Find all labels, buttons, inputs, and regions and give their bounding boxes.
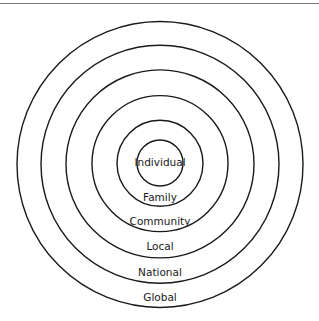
label-individual: Individual — [134, 156, 185, 168]
label-community: Community — [130, 215, 191, 227]
label-national: National — [138, 266, 182, 278]
label-local: Local — [146, 240, 173, 252]
label-global: Global — [143, 291, 177, 303]
label-family: Family — [143, 191, 177, 203]
concentric-circles-diagram: Individual Family Community Local Nation… — [0, 0, 319, 321]
